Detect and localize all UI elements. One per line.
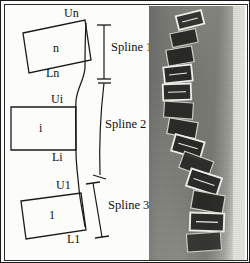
endplate-label-upper-ln: Ln [46, 67, 59, 79]
spline-2-extent-bracket [93, 83, 111, 179]
vertebra-segment [163, 65, 193, 84]
spline-3-extent-bracket [86, 182, 109, 238]
spline-1-extent-bracket [97, 25, 111, 79]
spline-curve [76, 23, 86, 227]
vertebra-segment [186, 232, 221, 252]
endplate-label-lower-u1: U1 [56, 179, 71, 191]
page-showthrough-text [11, 253, 13, 261]
radiograph-svg [149, 6, 245, 261]
vertebra-segment [190, 212, 225, 231]
spline-label-2: Spline 2 [105, 118, 146, 131]
vertebra-segment [163, 84, 192, 101]
vertebra-label-upper: n [53, 42, 59, 54]
endplate-label-upper-un: Un [64, 7, 79, 19]
vertebra-box-middle [11, 107, 76, 150]
vertebra-label-middle: i [39, 122, 42, 134]
vertebra-label-lower: 1 [49, 209, 55, 221]
diagram-panel: n i 1 Un Ln Ui Li U1 L1 Spline 1 Spline … [5, 5, 152, 260]
endplate-label-middle-li: Li [52, 151, 63, 163]
vertebra-segment [163, 101, 193, 119]
radiograph-film-margin [233, 6, 245, 261]
endplate-label-middle-ui: Ui [51, 93, 63, 105]
xray-panel [149, 6, 245, 261]
figure-inner-frame: n i 1 Un Ln Ui Li U1 L1 Spline 1 Spline … [4, 4, 248, 261]
endplate-label-lower-l1: L1 [67, 233, 80, 245]
spline-label-1: Spline 1 [111, 41, 152, 54]
figure-container: n i 1 Un Ln Ui Li U1 L1 Spline 1 Spline … [0, 0, 250, 263]
spline-label-3: Spline 3 [108, 199, 149, 212]
